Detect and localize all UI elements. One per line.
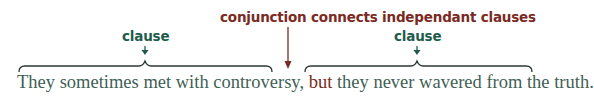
clause-right-label: clause bbox=[394, 28, 441, 44]
conjunction-label: conjunction connects independant clauses bbox=[220, 9, 536, 25]
left-clause-brace bbox=[19, 61, 272, 72]
conjunction-arrow-icon bbox=[285, 27, 292, 69]
independent-clause-1: They sometimes met with controversy, bbox=[17, 72, 304, 92]
independent-clause-2: they never wavered from the truth. bbox=[337, 72, 594, 92]
example-sentence: They sometimes met with controversy, but… bbox=[17, 72, 594, 93]
coordinating-conjunction: but bbox=[309, 72, 333, 92]
right-clause-arrow-icon bbox=[414, 46, 421, 55]
clause-left-label: clause bbox=[122, 28, 169, 44]
left-clause-arrow-icon bbox=[142, 46, 149, 55]
right-clause-brace bbox=[305, 61, 532, 72]
